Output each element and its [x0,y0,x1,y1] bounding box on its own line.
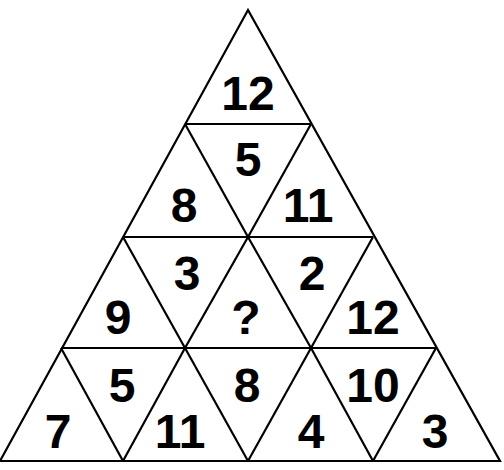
triangle-puzzle: 12 8 5 11 9 3 ? 2 12 7 5 11 8 4 10 3 [0,0,504,470]
cell-r2c2: 5 [235,133,262,186]
cell-r3c2: 3 [174,247,201,300]
cell-r1c1: 12 [221,67,274,120]
cell-r4c2: 5 [109,359,136,412]
cell-r2c3: 11 [283,179,334,232]
cell-numbers: 12 8 5 11 9 3 ? 2 12 7 5 11 8 4 10 3 [45,67,449,458]
cell-r2c1: 8 [171,179,198,232]
cell-r3c4: 2 [299,247,326,300]
cell-r4c6: 10 [346,359,399,412]
cell-r3c1: 9 [105,291,132,344]
cell-r3c5: 12 [346,291,399,344]
cell-r4c3: 11 [155,405,206,458]
cell-r4c7: 3 [422,405,449,458]
cell-r3c3-unknown: ? [231,291,260,344]
cell-r4c4: 8 [234,359,261,412]
cell-r4c5: 4 [298,405,325,458]
cell-r4c1: 7 [45,405,72,458]
